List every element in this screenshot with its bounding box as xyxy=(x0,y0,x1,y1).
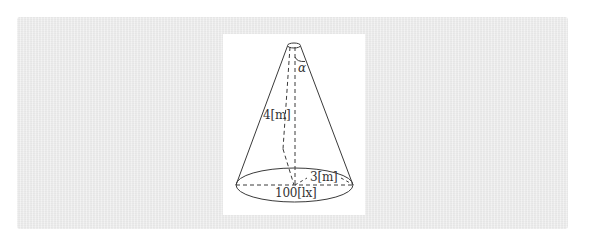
cone-figure: α 4[m] 3[m] 100[lx] xyxy=(223,34,365,215)
height-label: 4[m] xyxy=(263,109,291,121)
illuminance-label: 100[lx] xyxy=(275,187,316,199)
cone-right-edge xyxy=(301,46,354,185)
apex-ellipse xyxy=(288,43,301,48)
radius-dashed xyxy=(295,178,307,185)
radius-label: 3[m] xyxy=(310,171,338,183)
slant-distance-dashed xyxy=(283,47,290,149)
angle-label: α xyxy=(298,62,306,74)
slant-distance-dashed-lower xyxy=(283,149,294,185)
